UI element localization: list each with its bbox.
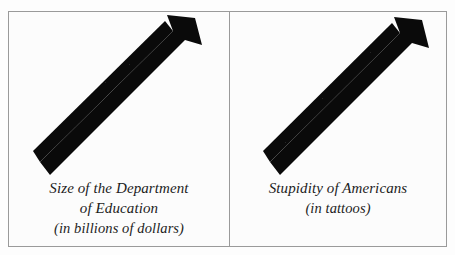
caption-left-line-3: (in billions of dollars)	[9, 219, 229, 239]
caption-left: Size of the Department of Education (in …	[9, 179, 229, 239]
figure-frame: Size of the Department of Education (in …	[8, 11, 447, 247]
up-right-arrow-icon	[230, 12, 446, 176]
caption-left-line-2: of Education	[9, 199, 229, 219]
caption-right: Stupidity of Americans (in tattoos)	[230, 179, 446, 219]
arrow-container-left	[9, 12, 229, 176]
panel-right: Stupidity of Americans (in tattoos)	[230, 12, 446, 246]
caption-left-line-1: Size of the Department	[9, 179, 229, 199]
arrow-container-right	[230, 12, 446, 176]
up-right-arrow-icon	[9, 12, 229, 176]
caption-right-line-1: Stupidity of Americans	[230, 179, 446, 199]
panel-left: Size of the Department of Education (in …	[9, 12, 229, 246]
caption-right-line-2: (in tattoos)	[230, 199, 446, 219]
figure-image: Size of the Department of Education (in …	[0, 0, 455, 255]
